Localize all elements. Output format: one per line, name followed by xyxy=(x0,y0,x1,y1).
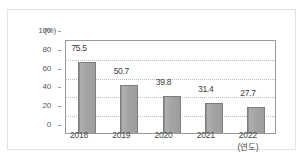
x-axis-tick-label: 2021 xyxy=(183,130,229,140)
y-axis-tick-mark xyxy=(58,106,61,107)
y-axis-tick-mark xyxy=(58,125,61,126)
bar xyxy=(78,62,96,133)
y-axis-tick-mark xyxy=(58,87,61,88)
x-axis-tick-label: 2020 xyxy=(141,130,187,140)
bar xyxy=(205,103,223,133)
y-axis-tick-mark xyxy=(58,31,61,32)
bar-value-label: 39.8 xyxy=(144,77,184,87)
x-axis-tick-label: 2018 xyxy=(56,130,102,140)
bar-value-label: 27.7 xyxy=(228,88,268,98)
gridline xyxy=(66,60,275,61)
bar xyxy=(163,96,181,133)
bar-value-label: 75.5 xyxy=(59,43,99,53)
y-axis-tick-label: 80 xyxy=(29,45,51,54)
y-axis-tick-label: 0 xyxy=(29,120,51,129)
y-axis-tick-label: 100 xyxy=(29,26,51,35)
cropped-header-fragment xyxy=(0,0,305,7)
x-axis-tick-label: 2022 xyxy=(225,130,271,140)
figure-container: (%) 020406080100 75.550.739.831.427.7 20… xyxy=(7,9,296,150)
bar-value-label: 50.7 xyxy=(101,66,141,76)
x-axis-unit-label: (연도) xyxy=(225,140,271,152)
x-axis-tick-label: 2019 xyxy=(98,130,144,140)
y-axis-tick-label: 20 xyxy=(29,101,51,110)
bar-value-label: 31.4 xyxy=(186,84,226,94)
y-axis-tick-mark xyxy=(58,69,61,70)
y-axis-tick-label: 40 xyxy=(29,82,51,91)
bar xyxy=(120,85,138,133)
y-axis-tick-label: 60 xyxy=(29,64,51,73)
